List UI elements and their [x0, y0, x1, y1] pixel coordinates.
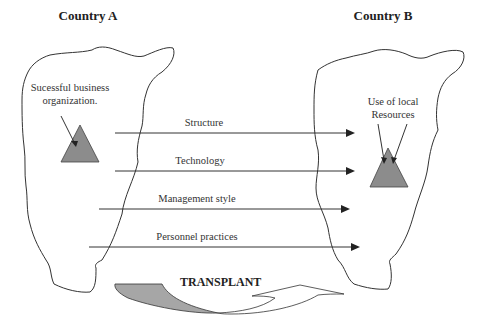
transfer-label-technology: Technology	[175, 155, 224, 166]
resources-pointer-line-left	[378, 124, 384, 160]
transfer-label-personnel-practices: Personnel practices	[156, 231, 237, 242]
transfer-arrow-management-style	[99, 205, 350, 213]
country-b-title: Country B	[354, 8, 413, 24]
local-resources-label-line1: Use of local	[368, 96, 419, 107]
local-resources-label-line2: Resources	[371, 109, 414, 120]
local-resources-triangle	[370, 148, 408, 187]
organization-label-line2: organization.	[43, 95, 98, 106]
country-a-title: Country A	[59, 8, 118, 24]
organization-label-line1: Sucessful business	[31, 82, 109, 93]
transplant-label: TRANSPLANT	[180, 275, 261, 290]
transfer-arrow-personnel-practices	[89, 243, 360, 251]
organization-pointer-line	[61, 116, 75, 144]
resources-pointer-line-right	[394, 124, 407, 160]
transfer-arrow-technology	[115, 167, 355, 175]
transfer-label-management-style: Management style	[158, 193, 235, 204]
transfer-arrow-structure	[115, 129, 355, 137]
transfer-label-structure: Structure	[185, 117, 224, 128]
organization-triangle	[61, 125, 99, 162]
